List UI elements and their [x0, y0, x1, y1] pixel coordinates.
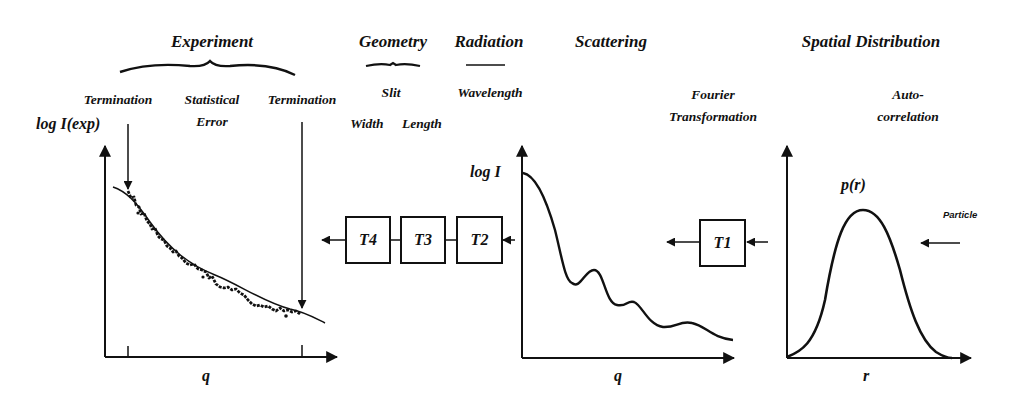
- transform-box-t3: T3: [400, 216, 446, 264]
- diagram-graphics: [0, 0, 1020, 398]
- transform-box-t4: T4: [345, 216, 391, 264]
- brace-geometry: [366, 63, 420, 66]
- experimental-data-points: [128, 191, 300, 314]
- transform-box-t2: T2: [456, 216, 503, 264]
- experimental-plot: [105, 122, 337, 357]
- experimental-fit-curve: [113, 187, 325, 323]
- brace-experiment: [120, 61, 295, 75]
- transform-box-t1: T1: [699, 219, 746, 267]
- pr-curve: [787, 210, 952, 358]
- pr-plot: [787, 146, 971, 358]
